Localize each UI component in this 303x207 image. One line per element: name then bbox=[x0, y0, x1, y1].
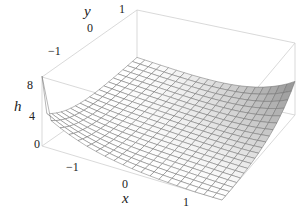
h-tick-0: 0 bbox=[34, 138, 40, 150]
surface-plot bbox=[0, 0, 303, 207]
y-axis-label: y bbox=[84, 4, 91, 19]
h-axis-label: h bbox=[14, 99, 22, 114]
y-tick-0: 0 bbox=[87, 22, 93, 34]
h-tick-4: 4 bbox=[29, 110, 35, 122]
x-tick-0: 0 bbox=[122, 178, 128, 190]
y-tick-neg1: −1 bbox=[48, 45, 61, 57]
x-tick-neg1: −1 bbox=[66, 161, 79, 173]
x-tick-1: 1 bbox=[183, 196, 189, 207]
surface-mesh bbox=[42, 57, 295, 200]
x-axis-label: x bbox=[122, 191, 129, 206]
y-tick-1: 1 bbox=[119, 3, 125, 15]
h-tick-8: 8 bbox=[27, 79, 33, 91]
